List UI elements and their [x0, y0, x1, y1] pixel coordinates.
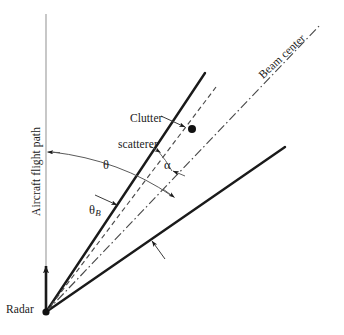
radar-clutter-diagram: Radar Aircraft flight path Beam center C…: [0, 0, 344, 335]
aircraft-flight-path-label: Aircraft flight path: [30, 121, 43, 221]
theta-arc-arrowhead-right: [163, 189, 175, 198]
beam-edge-callout-arrow: [152, 241, 165, 259]
alpha-angle-label: α: [164, 158, 171, 172]
radar-label: Radar: [6, 303, 34, 316]
clutter-scatterer-label-line2: scatterer: [118, 138, 163, 151]
theta-arc-arrowhead-left: [48, 152, 61, 153]
clutter-scatterer-point: [188, 125, 196, 133]
theta-b-subscript: B: [95, 208, 101, 218]
clutter-scatterer-label-line1: Clutter: [130, 112, 163, 124]
theta-angle-label: θ: [103, 158, 109, 172]
clutter-scatterer-leader-arrow: [161, 116, 185, 127]
alpha-arrowhead-lower: [173, 171, 185, 176]
radar-origin-point: [42, 308, 49, 315]
clutter-scatterer-label: Clutter scatterer: [118, 99, 163, 176]
theta-b-angle-label: θB: [76, 189, 101, 232]
